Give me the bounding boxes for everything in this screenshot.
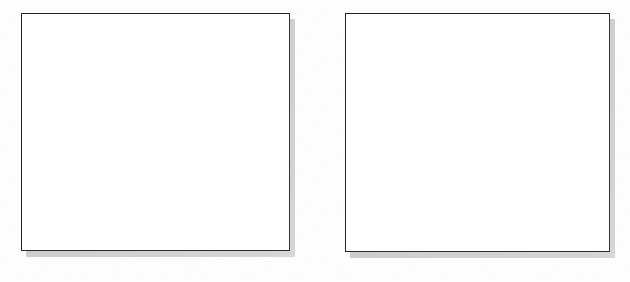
left-empty-box [21, 13, 290, 251]
scanned-page [0, 0, 630, 282]
right-box-border [345, 13, 610, 252]
left-box-border [21, 13, 290, 251]
right-empty-box [345, 13, 610, 252]
